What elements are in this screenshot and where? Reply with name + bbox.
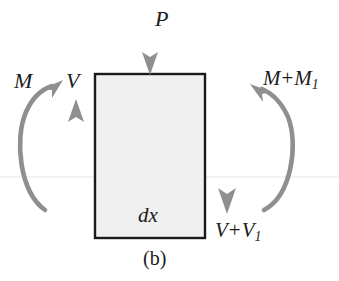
moment-right-subscript: 1 — [312, 77, 319, 92]
shear-right-base: V — [215, 218, 228, 242]
moment-arc-left-M — [20, 80, 63, 210]
shear-right-operator: + — [228, 218, 242, 242]
moment-right-operator: + — [281, 66, 295, 90]
moment-right-term: M — [294, 66, 312, 90]
label-moment-right-M-plus-M1: M+M1 — [263, 68, 319, 92]
label-shear-right-V-plus-V1: V+V1 — [215, 220, 261, 244]
label-load-P: P — [155, 8, 168, 30]
label-moment-left-M: M — [14, 70, 32, 92]
shear-arrow-right-V-plus-V1 — [218, 105, 236, 214]
beam-element-free-body-diagram: P M V M+M1 V+V1 dx (b) — [0, 0, 339, 281]
shear-right-subscript: 1 — [255, 229, 262, 244]
label-element-length-dx: dx — [138, 205, 158, 226]
shear-arrow-left-V — [68, 99, 84, 215]
moment-arc-right-M-plus-M1 — [250, 84, 293, 210]
label-shear-left-V: V — [66, 70, 79, 92]
moment-right-base: M — [263, 66, 281, 90]
shear-right-term: V — [242, 218, 255, 242]
figure-caption: (b) — [143, 248, 166, 268]
diagram-canvas — [0, 0, 339, 281]
